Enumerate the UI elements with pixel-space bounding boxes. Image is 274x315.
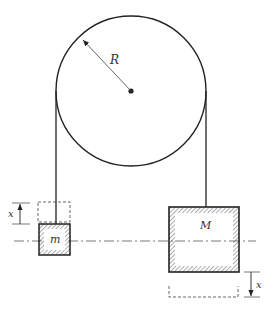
mass-small: m bbox=[38, 202, 70, 255]
atwood-machine-diagram: R m x M x bbox=[0, 0, 274, 315]
pulley: R bbox=[56, 16, 206, 166]
displacement-right: x bbox=[244, 272, 262, 297]
radius-label: R bbox=[109, 53, 119, 67]
mass-large: M bbox=[169, 207, 239, 297]
mass-small-displaced-outline bbox=[38, 202, 70, 222]
mass-small-label: m bbox=[50, 233, 60, 246]
displacement-right-label: x bbox=[256, 279, 262, 290]
displacement-left-label: x bbox=[8, 208, 14, 219]
radius-arrow bbox=[83, 40, 131, 91]
displacement-left: x bbox=[8, 203, 30, 224]
mass-large-label: M bbox=[199, 219, 212, 232]
mass-large-displaced-outline bbox=[169, 286, 238, 297]
